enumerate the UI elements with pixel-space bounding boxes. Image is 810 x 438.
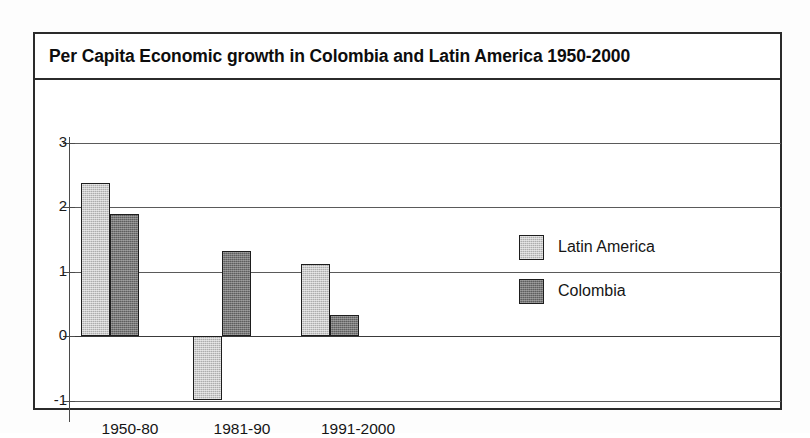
legend-item-latin-america: Latin America	[519, 225, 749, 269]
gridline-0	[69, 336, 781, 337]
bar-latin-america-1981-90	[193, 336, 222, 400]
bar-latin-america-1950-80	[81, 183, 110, 336]
bar-colombia-1991-2000	[330, 315, 359, 336]
y-tick-1: 1	[35, 272, 67, 273]
gridline-2	[69, 207, 781, 208]
x-category-label-3: 1991-2000	[301, 420, 415, 438]
y-tick-label-neg1: -1	[41, 391, 67, 408]
x-category-label-2: 1981-90	[195, 420, 289, 438]
y-tick-2: 2	[35, 207, 67, 208]
y-tick-3: 3	[35, 143, 67, 144]
bar-colombia-1950-80	[110, 214, 139, 336]
legend-label-colombia: Colombia	[558, 282, 626, 300]
y-tick-0: 0	[35, 336, 67, 337]
y-tick-label-1: 1	[41, 262, 67, 279]
x-category-label-1: 1950-80	[83, 420, 177, 438]
chart-frame: Per Capita Economic growth in Colombia a…	[33, 32, 782, 410]
chart-title: Per Capita Economic growth in Colombia a…	[35, 46, 630, 67]
latin-america-swatch	[519, 235, 544, 260]
y-tick-label-0: 0	[41, 326, 67, 343]
chart-title-band: Per Capita Economic growth in Colombia a…	[35, 34, 780, 80]
y-tick-label-2: 2	[41, 197, 67, 214]
legend-item-colombia: Colombia	[519, 269, 749, 313]
legend-label-latin-america: Latin America	[558, 238, 655, 256]
chart-legend: Latin America Colombia	[519, 225, 749, 313]
gridline-neg1	[69, 401, 781, 402]
bar-latin-america-1991-2000	[301, 264, 330, 336]
bar-colombia-1981-90	[222, 251, 251, 336]
y-tick-neg1: -1	[35, 401, 67, 402]
y-axis-line	[69, 137, 70, 422]
y-tick-label-3: 3	[41, 133, 67, 150]
plot-area: 3 2 1 0 -1 1950-80 1981-90 1991-2000	[35, 80, 780, 408]
colombia-swatch	[519, 279, 544, 304]
gridline-3	[69, 143, 781, 144]
